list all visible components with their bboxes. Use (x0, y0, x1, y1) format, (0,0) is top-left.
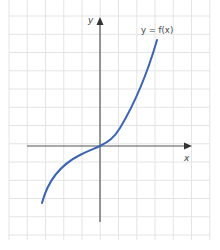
y-axis-label: y (87, 15, 94, 25)
axes (27, 17, 192, 222)
x-axis-label: x (183, 153, 190, 163)
function-label: y = f(x) (141, 25, 173, 35)
y-axis-arrow-icon (97, 17, 104, 25)
grid (9, 0, 210, 240)
function-graph: y x y = f(x) (0, 0, 220, 250)
